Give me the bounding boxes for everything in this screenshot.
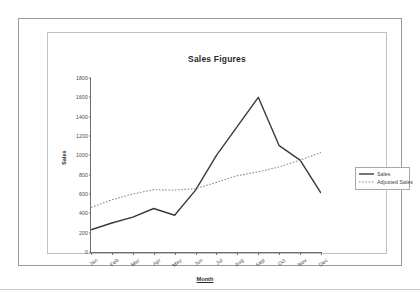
x-tick-mark xyxy=(112,252,113,255)
x-tick-label: Apr xyxy=(151,257,161,267)
legend-item-adjusted-sales[interactable]: Adjusted Sales xyxy=(359,178,406,186)
x-tick-label: Oct xyxy=(277,257,287,267)
chart-object-frame[interactable]: Sales Figures Sales 02004006008001000120… xyxy=(47,32,387,254)
x-tick-label: Dec xyxy=(317,257,328,268)
x-tick-mark xyxy=(300,252,301,255)
x-tick-mark xyxy=(154,252,155,255)
chart-legend[interactable]: Sales Adjusted Sales xyxy=(355,167,410,190)
x-tick-label: Mar xyxy=(130,257,141,267)
chart-title: Sales Figures xyxy=(48,54,386,64)
x-tick-mark xyxy=(258,252,259,255)
plot-area: 020040060080010001200140016001800 JanFeb… xyxy=(90,78,321,253)
x-tick-label: Aug xyxy=(234,257,245,268)
x-tick-label: Jun xyxy=(193,257,204,267)
x-tick-mark xyxy=(91,252,92,255)
dotted-line-icon xyxy=(359,179,374,185)
x-tick-mark xyxy=(196,252,197,255)
x-tick-label: May xyxy=(171,257,183,268)
y-tick-mark xyxy=(89,97,92,98)
x-tick-mark xyxy=(175,252,176,255)
x-tick-label: Jul xyxy=(215,257,224,266)
y-tick-mark xyxy=(89,116,92,117)
series-line-adjusted-sales xyxy=(91,152,321,207)
y-tick-mark xyxy=(89,213,92,214)
y-tick-label: 800 xyxy=(79,172,88,178)
x-tick-mark xyxy=(216,252,217,255)
y-tick-mark xyxy=(89,78,92,79)
x-tick-mark xyxy=(321,252,322,255)
x-tick-label: Feb xyxy=(109,257,120,267)
y-axis-title: Sales xyxy=(61,150,67,165)
plot-svg xyxy=(91,78,321,252)
y-tick-label: 400 xyxy=(79,210,88,216)
x-tick-label: Sep xyxy=(255,257,266,268)
y-tick-label: 1800 xyxy=(76,75,88,81)
y-tick-label: 200 xyxy=(79,230,88,236)
y-tick-mark xyxy=(89,174,92,175)
series-line-sales xyxy=(91,97,321,229)
y-tick-mark xyxy=(89,194,92,195)
legend-item-sales[interactable]: Sales xyxy=(359,170,406,178)
x-tick-mark xyxy=(133,252,134,255)
legend-label-adjusted-sales: Adjusted Sales xyxy=(377,179,413,185)
y-tick-label: 1200 xyxy=(76,133,88,139)
y-tick-mark xyxy=(89,155,92,156)
y-tick-label: 1400 xyxy=(76,114,88,120)
y-tick-label: 1000 xyxy=(76,152,88,158)
y-tick-mark xyxy=(89,136,92,137)
y-tick-label: 1600 xyxy=(76,94,88,100)
x-axis-title: Month xyxy=(90,276,320,282)
document-frame: Sales Figures Sales 02004006008001000120… xyxy=(18,18,402,266)
x-tick-mark xyxy=(279,252,280,255)
x-tick-label: Jan xyxy=(88,257,99,267)
page-divider xyxy=(0,289,420,290)
y-tick-mark xyxy=(89,232,92,233)
solid-line-icon xyxy=(359,171,374,177)
x-tick-mark xyxy=(237,252,238,255)
y-tick-label: 600 xyxy=(79,191,88,197)
x-tick-label: Nov xyxy=(297,257,308,268)
legend-label-sales: Sales xyxy=(377,171,390,177)
